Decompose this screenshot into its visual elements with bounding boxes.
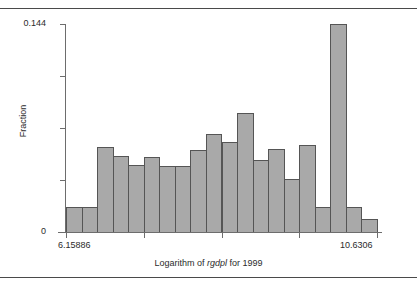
- histogram-bar: [66, 207, 83, 233]
- histogram-bar: [175, 166, 192, 233]
- histogram-bar: [159, 166, 176, 233]
- histogram-bar: [144, 157, 161, 233]
- x-axis-title-emphasis: rgdpl: [207, 258, 227, 268]
- x-tick-label-max: 10.6306: [340, 240, 373, 250]
- histogram-bar: [253, 160, 270, 233]
- x-tick-mark: [222, 233, 223, 238]
- histogram-bar: [128, 165, 145, 233]
- x-tick-label-min: 6.15886: [58, 240, 91, 250]
- histogram-bar: [222, 142, 239, 233]
- x-axis-title: Logarithm of rgdpl for 1999: [0, 258, 417, 268]
- x-tick-mark: [144, 233, 145, 238]
- histogram-bar: [346, 207, 363, 233]
- histogram-bar: [315, 207, 332, 233]
- figure-bottom-rule: [0, 277, 417, 278]
- x-tick-mark: [377, 233, 378, 238]
- x-tick-mark: [299, 233, 300, 238]
- figure-frame: Fraction 0.1440 6.15886 10.6306 Logarith…: [0, 0, 417, 286]
- histogram-bar: [113, 156, 130, 233]
- x-axis-line: [58, 232, 382, 233]
- histogram-bar: [82, 207, 99, 233]
- plot-area: Fraction 0.1440 6.15886 10.6306 Logarith…: [0, 8, 417, 277]
- x-axis-title-prefix: Logarithm of: [154, 258, 207, 268]
- histogram-bar: [206, 134, 223, 233]
- histogram-bar: [361, 219, 378, 233]
- histogram-bars: [0, 8, 417, 277]
- histogram-bar: [284, 179, 301, 233]
- x-axis-title-suffix: for 1999: [227, 258, 263, 268]
- histogram-bar: [190, 150, 207, 233]
- histogram-bar: [299, 145, 316, 233]
- histogram-bar: [237, 113, 254, 233]
- x-tick-mark: [66, 233, 67, 238]
- histogram-bar: [330, 24, 347, 233]
- histogram-bar: [97, 147, 114, 233]
- histogram-bar: [268, 149, 285, 233]
